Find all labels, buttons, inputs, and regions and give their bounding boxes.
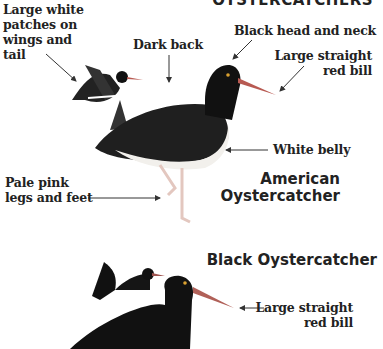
label-legs: Pale pink legs and feet: [5, 175, 93, 205]
label-belly: White belly: [273, 142, 350, 157]
label-head-neck: Black head and neck: [234, 23, 376, 38]
label-white-patches: Large white patches on wings and tail: [3, 2, 84, 62]
arrow-head-neck: [233, 40, 252, 59]
black-oystercatcher-title: Black Oystercatcher: [207, 252, 377, 269]
label-black-bill: Large straight red bill: [255, 300, 353, 330]
american-oystercatcher-title: American Oystercatcher: [220, 171, 340, 205]
black-oystercatcher-image: [70, 262, 234, 349]
label-dark-back: Dark back: [133, 37, 203, 52]
label-bill: Large straight red bill: [274, 48, 372, 78]
